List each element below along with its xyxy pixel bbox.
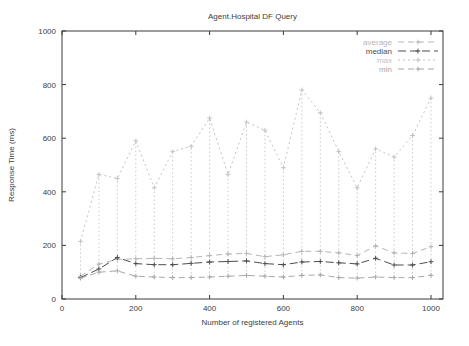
y-tick-label: 1000 — [38, 27, 56, 36]
y-tick-label: 400 — [43, 188, 57, 197]
y-tick-label: 200 — [43, 241, 57, 250]
legend-label-median: median — [366, 47, 392, 56]
x-tick-label: 200 — [129, 304, 143, 313]
figure-background — [0, 0, 469, 346]
legend-label-min: min — [379, 65, 392, 74]
chart-title: Agent.Hospital DF Query — [208, 12, 297, 21]
y-tick-label: 600 — [43, 134, 57, 143]
legend-label-average: average — [363, 38, 392, 47]
x-tick-label: 400 — [203, 304, 217, 313]
chart-figure: 0200400600800100002004006008001000Agent.… — [0, 0, 469, 346]
y-tick-label: 0 — [52, 295, 57, 304]
x-tick-label: 600 — [277, 304, 291, 313]
legend-label-max: max — [377, 56, 392, 65]
y-axis-label: Response Time (ms) — [7, 128, 16, 202]
chart-canvas: 0200400600800100002004006008001000Agent.… — [0, 0, 469, 346]
x-tick-label: 1000 — [422, 304, 440, 313]
x-axis-label: Number of registered Agents — [202, 318, 304, 327]
x-tick-label: 0 — [60, 304, 65, 313]
y-tick-label: 800 — [43, 81, 57, 90]
x-tick-label: 800 — [351, 304, 365, 313]
